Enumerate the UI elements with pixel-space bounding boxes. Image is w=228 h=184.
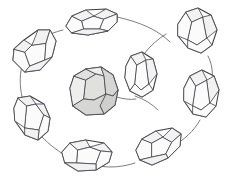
illustration-canvas [0, 0, 228, 184]
crystal-inner-right [125, 52, 157, 97]
crystal-ring-illustration [0, 0, 228, 184]
center-crystal [70, 67, 118, 115]
